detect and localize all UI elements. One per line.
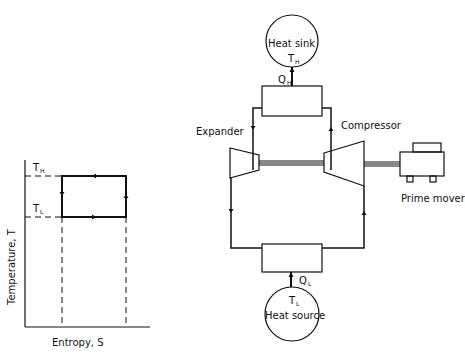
ts-xlabel: Entropy, S (52, 338, 104, 348)
shaft (259, 161, 324, 165)
heat-sink-temp: TH (288, 54, 300, 65)
arrow-right-icon (92, 215, 96, 220)
ql-label: QL (299, 276, 311, 287)
cycle-arrows (60, 174, 129, 220)
arrow-up-icon (124, 194, 129, 198)
compressor-label: Compressor (341, 121, 401, 131)
flow-arrow-icon (251, 126, 256, 130)
ql-arrow-icon (289, 272, 294, 277)
ts-ylabel: Temperature, T (6, 229, 17, 305)
expander-label: Expander (196, 127, 244, 137)
evaporator-box (262, 244, 322, 272)
ts-axes (25, 160, 150, 327)
drive-shaft (364, 162, 400, 166)
ts-dashed-guides (25, 176, 126, 327)
prime-mover-shape (400, 143, 444, 182)
carnot-cycle (62, 176, 126, 217)
flow-arrow-icon (362, 211, 367, 215)
arrow-down-icon (60, 192, 65, 196)
bottom-pipes (231, 178, 364, 248)
diagram-canvas (0, 0, 465, 359)
flow-arrow-icon (329, 127, 334, 131)
flow-arrow-icon (229, 209, 234, 213)
heat-sink-label: Heat sink (268, 39, 315, 49)
expander-shape (230, 148, 259, 178)
arrow-left-icon (92, 174, 96, 179)
heat-source-label: Heat source (265, 311, 325, 321)
qh-arrow-icon (290, 67, 295, 72)
qh-label: QH (278, 75, 291, 86)
heat-source-temp: TL (289, 296, 299, 307)
compressor-shape (324, 141, 364, 186)
prime-mover-label: Prime mover (401, 194, 465, 204)
th-label: TH (33, 163, 45, 174)
tl-label: TL (33, 204, 43, 215)
condenser-box (262, 86, 322, 116)
